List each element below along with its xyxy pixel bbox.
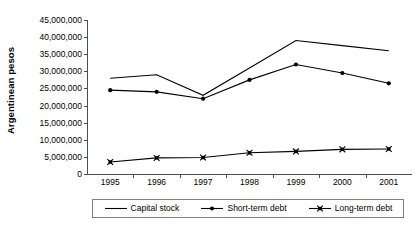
series-layer [87,20,412,175]
y-axis-tick-mark [84,54,87,55]
y-axis-tick-mark [84,106,87,107]
y-axis-tick-label: 30,000,000 [18,67,82,76]
legend-entry[interactable]: Long-term debt [308,204,393,213]
x-axis-tick-label: 2000 [322,178,362,187]
data-point-marker-circle [340,71,344,75]
y-axis-tick-mark [84,37,87,38]
legend-entry[interactable]: Short-term debt [200,204,286,213]
legend-swatch-circle [200,204,224,213]
y-axis-tick-mark [84,123,87,124]
data-point-marker-circle [201,97,205,101]
legend-entry[interactable]: Capital stock [104,204,180,213]
y-axis-tick-mark [84,140,87,141]
x-axis-tick-label: 1996 [137,178,177,187]
y-axis-tick-mark [84,88,87,89]
y-axis-title-label: Argentinean pesos [6,46,17,133]
y-axis-tick-label: 5,000,000 [18,153,82,162]
y-axis-tick-label: 40,000,000 [18,33,82,42]
x-axis-tick-label: 1998 [230,178,270,187]
data-point-marker-circle [247,78,251,82]
y-axis-tick-label: 45,000,000 [18,16,82,25]
series-line-0 [110,41,389,96]
series-line-2 [110,149,389,162]
y-axis-tick-label: 25,000,000 [18,84,82,93]
y-axis-tick-mark [84,71,87,72]
x-axis-tick-label: 1999 [276,178,316,187]
data-point-marker-circle [155,90,159,94]
legend-entry-label: Capital stock [131,204,180,213]
legend-entry-label: Short-term debt [227,204,286,213]
y-axis-tick-labels: 45,000,00040,000,00035,000,00030,000,000… [18,20,82,174]
x-axis-tick-label: 1995 [90,178,130,187]
x-axis-tick-label: 1997 [183,178,223,187]
line-chart: Argentinean pesos 45,000,00040,000,00035… [0,0,419,226]
legend-swatch-star [308,204,332,213]
y-axis-tick-mark [84,157,87,158]
y-axis-tick-label: 10,000,000 [18,136,82,145]
y-axis-tick-label: 0 [18,170,82,179]
legend-entry-label: Long-term debt [335,204,393,213]
plot-area [87,20,412,174]
y-axis-tick-label: 35,000,000 [18,50,82,59]
data-point-marker-circle [210,206,214,210]
y-axis-tick-label: 15,000,000 [18,118,82,127]
x-axis-tick-labels: 1995199619971998199920002001 [87,178,412,192]
x-axis-tick-label: 2001 [369,178,409,187]
legend-swatch-none [104,204,128,213]
y-axis-tick-mark [84,20,87,21]
data-point-marker-circle [108,88,112,92]
chart-legend: Capital stockShort-term debtLong-term de… [92,199,404,218]
y-axis-tick-label: 20,000,000 [18,101,82,110]
data-point-marker-circle [387,81,391,85]
data-point-marker-circle [294,62,298,66]
y-axis-tick-mark [84,174,87,175]
